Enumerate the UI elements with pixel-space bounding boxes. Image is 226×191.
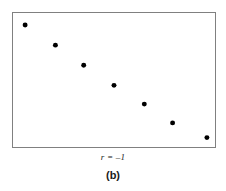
plot-frame (12, 12, 216, 148)
data-point-group (23, 23, 210, 140)
data-point (81, 63, 86, 68)
panel-caption: (b) (0, 169, 226, 182)
figure-panel-b: r = –1 (b) (0, 0, 226, 191)
data-point (170, 120, 175, 125)
data-point (204, 135, 209, 140)
data-point (53, 43, 58, 48)
scatter-plot-area (13, 13, 215, 147)
data-point (142, 102, 147, 107)
data-point (23, 23, 28, 28)
correlation-coefficient-label: r = –1 (0, 152, 226, 163)
data-point (112, 83, 117, 88)
